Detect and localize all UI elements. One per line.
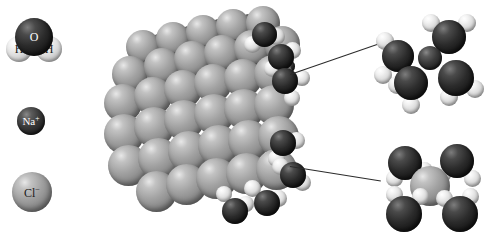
chloride-charge: − — [35, 185, 40, 194]
hydrated-sodium-inset — [372, 6, 490, 106]
oxygen-sphere — [254, 190, 280, 216]
legend-item-sodium: Na+ — [17, 107, 47, 137]
oxygen-sphere — [270, 130, 296, 156]
legend-item-chloride: Cl− — [12, 172, 54, 214]
sodium-label: Na+ — [17, 115, 45, 128]
sodium-sphere: Na+ — [17, 107, 45, 135]
figure-canvas: H H O Na+ Cl− — [0, 0, 492, 236]
hydrated-chloride-inset — [364, 132, 490, 232]
oxygen-sphere — [268, 44, 294, 70]
sodium-symbol: Na — [22, 115, 35, 127]
oxygen-sphere: O — [15, 18, 53, 56]
oxygen-sphere — [386, 196, 422, 232]
oxygen-label: O — [15, 31, 53, 43]
chloride-label: Cl− — [12, 186, 52, 199]
oxygen-sphere — [394, 66, 428, 100]
sodium-chloride-crystal — [104, 4, 326, 232]
central-sodium-ion — [418, 46, 442, 70]
legend: H H O Na+ Cl− — [0, 0, 104, 236]
legend-item-water: H H O — [6, 18, 64, 64]
chloride-symbol: Cl — [24, 186, 35, 200]
oxygen-sphere — [438, 60, 474, 96]
oxygen-sphere — [442, 196, 478, 232]
oxygen-sphere — [222, 198, 248, 224]
sodium-charge: + — [35, 114, 39, 123]
chloride-sphere: Cl− — [12, 172, 52, 212]
oxygen-sphere — [252, 22, 277, 47]
